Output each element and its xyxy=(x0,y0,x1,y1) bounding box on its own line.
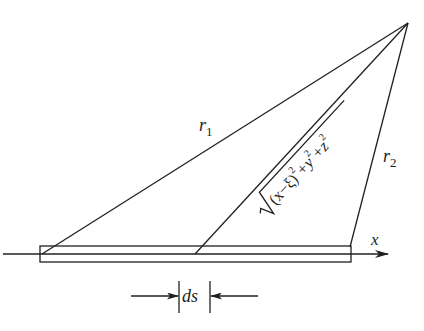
ds-dimension: ds xyxy=(131,281,258,313)
line-middle xyxy=(195,23,408,254)
diagram-canvas: x r1 r2 (x−ξ)2+y2+z2 ds xyxy=(0,0,424,331)
line-r1 xyxy=(42,23,408,254)
r1-label: r1 xyxy=(199,115,213,139)
r2-label: r2 xyxy=(383,146,397,170)
x-axis-label: x xyxy=(370,230,379,249)
distance-formula: (x−ξ)2+y2+z2 xyxy=(249,100,362,220)
line-r2 xyxy=(350,23,408,247)
ds-label: ds xyxy=(182,286,198,306)
